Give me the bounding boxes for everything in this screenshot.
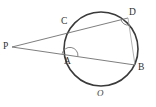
point-label-d: D	[129, 8, 136, 18]
point-label-b: B	[138, 63, 144, 73]
point-label-o: O	[97, 89, 104, 98]
point-label-c: C	[61, 17, 67, 27]
geometry-figure: P C D A B O	[0, 0, 156, 107]
secant-pd	[12, 18, 128, 47]
secant-pb	[12, 47, 135, 65]
point-label-a: A	[64, 57, 71, 67]
point-label-p: P	[3, 42, 8, 52]
chord-db	[128, 18, 135, 65]
